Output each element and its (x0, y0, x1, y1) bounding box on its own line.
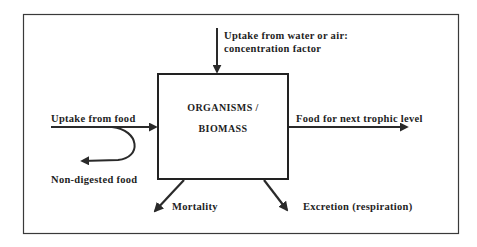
uptake-water-air-label-1: Uptake from water or air: (224, 30, 348, 42)
mortality-label: Mortality (172, 201, 218, 213)
non-digested-label: Non-digested food (51, 174, 137, 186)
non-digested-arrow (82, 127, 135, 161)
next-trophic-label: Food for next trophic level (296, 113, 423, 125)
uptake-water-air-label-2: concentration factor (224, 43, 321, 55)
excretion-label: Excretion (respiration) (303, 201, 412, 213)
organisms-label: ORGANISMS / (158, 102, 288, 114)
biomass-label: BIOMASS (158, 123, 288, 135)
diagram-canvas: Uptake from water or air: concentration … (0, 0, 477, 247)
uptake-food-label: Uptake from food (51, 113, 136, 125)
excretion-arrow (264, 180, 287, 210)
